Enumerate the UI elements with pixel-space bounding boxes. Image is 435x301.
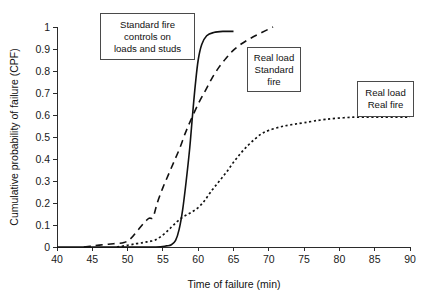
annotation-line: fire bbox=[267, 76, 280, 88]
y-tick-label: 0.1 bbox=[35, 219, 50, 231]
annotation-line: controls on bbox=[124, 31, 171, 43]
annotation-line: Real load bbox=[254, 52, 295, 64]
annotation-box-real-load-real-fire: Real loadReal fire bbox=[357, 81, 414, 117]
annotation-line: Real fire bbox=[368, 99, 404, 111]
annotation-line: loads and studs bbox=[114, 43, 181, 55]
annotation-box-real-load-standard-fire: Real loadStandardfire bbox=[247, 47, 301, 92]
x-tick-label: 65 bbox=[228, 253, 240, 265]
annotation-line: Real load bbox=[365, 87, 406, 99]
x-tick-label: 75 bbox=[298, 253, 310, 265]
series-line-dotted bbox=[117, 117, 410, 247]
x-axis-title: Time of failure (min) bbox=[188, 278, 281, 290]
annotation-box-standard-fire-controls: Standard firecontrols onloads and studs bbox=[100, 13, 195, 60]
x-tick-label: 80 bbox=[334, 253, 346, 265]
x-tick-label: 85 bbox=[369, 253, 381, 265]
annotation-line: Standard fire bbox=[120, 19, 175, 31]
y-tick-label: 0.2 bbox=[35, 197, 50, 209]
chart-axes: 404550556065707580859000.10.20.30.40.50.… bbox=[35, 21, 416, 265]
x-tick-label: 50 bbox=[122, 253, 134, 265]
y-tick-label: 0 bbox=[44, 241, 50, 253]
annotation-line: Standard bbox=[255, 64, 294, 76]
chart-figure: 404550556065707580859000.10.20.30.40.50.… bbox=[0, 0, 435, 301]
y-tick-label: 0.6 bbox=[35, 109, 50, 121]
y-tick-label: 0.8 bbox=[35, 65, 50, 77]
y-tick-label: 0.5 bbox=[35, 131, 50, 143]
series-line-dashed bbox=[84, 27, 273, 247]
y-tick-label: 0.9 bbox=[35, 43, 50, 55]
chart-series-group bbox=[57, 27, 410, 247]
x-tick-label: 60 bbox=[192, 253, 204, 265]
x-tick-label: 70 bbox=[263, 253, 275, 265]
y-tick-label: 0.7 bbox=[35, 87, 50, 99]
y-axis-title: Cumulative probability of failure (CPF) bbox=[8, 48, 20, 225]
y-tick-label: 0.4 bbox=[35, 153, 50, 165]
y-tick-label: 1 bbox=[44, 21, 50, 33]
series-line-solid bbox=[57, 31, 234, 247]
x-tick-label: 40 bbox=[51, 253, 63, 265]
chart-canvas: 404550556065707580859000.10.20.30.40.50.… bbox=[0, 0, 435, 301]
x-tick-label: 90 bbox=[404, 253, 416, 265]
x-tick-label: 45 bbox=[86, 253, 98, 265]
y-tick-label: 0.3 bbox=[35, 175, 50, 187]
x-tick-label: 55 bbox=[157, 253, 169, 265]
